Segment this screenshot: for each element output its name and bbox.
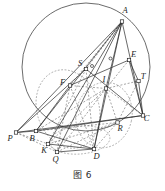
vertex-marker-N: [91, 65, 94, 68]
segment-PA: [16, 22, 122, 133]
vertex-marker-I: [104, 87, 107, 90]
point-label-T: T: [141, 71, 147, 81]
segment-FB: [36, 86, 70, 132]
segment-IK: [48, 89, 106, 145]
figure-page: AETCRDQKBPFSI 图 6: [0, 0, 165, 191]
vertex-marker-B: [34, 129, 37, 132]
point-label-A: A: [121, 5, 128, 15]
point-label-K: K: [40, 145, 48, 155]
vertex-marker-P: [14, 131, 17, 134]
segment-IQ: [57, 89, 106, 153]
segment-QD: [57, 149, 94, 152]
point-labels-layer: AETCRDQKBPFSI: [6, 5, 149, 165]
point-label-P: P: [6, 133, 12, 143]
dashed-conics-layer: [26, 61, 138, 156]
segment-FD: [70, 86, 94, 150]
point-label-E: E: [130, 49, 137, 59]
vertex-marker-A: [120, 20, 123, 23]
point-label-Q: Q: [52, 154, 58, 164]
point-label-F: F: [59, 77, 66, 87]
vertex-marker-F: [68, 84, 71, 87]
segment-SK: [48, 69, 86, 144]
segment-IT: [106, 81, 139, 89]
segment-ID: [94, 89, 106, 150]
segment-KR: [48, 123, 118, 145]
point-label-C: C: [144, 113, 150, 123]
point-label-S: S: [78, 58, 83, 68]
point-label-R: R: [116, 123, 123, 133]
figure-caption: 图 6: [0, 168, 165, 181]
point-label-D: D: [92, 151, 100, 161]
geometry-figure: AETCRDQKBPFSI: [0, 0, 165, 191]
vertex-marker-M: [109, 57, 112, 60]
point-label-I: I: [102, 74, 107, 84]
vertex-marker-S: [84, 67, 87, 70]
point-label-B: B: [29, 133, 34, 143]
segment-BR: [36, 123, 118, 132]
